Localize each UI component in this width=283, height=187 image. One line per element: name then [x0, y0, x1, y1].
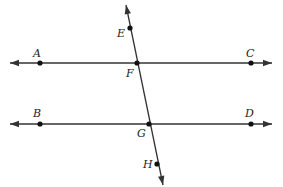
point-label-D: D	[244, 107, 254, 120]
point-label-B: B	[32, 107, 41, 120]
point-label-G: G	[137, 127, 146, 140]
line-AC	[10, 60, 272, 66]
point-label-E: E	[116, 27, 125, 40]
geometry-diagram: ACEFBDGH	[0, 0, 283, 187]
point-dot-icon	[37, 60, 42, 65]
point-label-F: F	[125, 67, 134, 80]
point-dot-icon	[154, 161, 159, 166]
arrowhead-icon	[10, 121, 19, 127]
point-label-C: C	[246, 47, 255, 60]
point-label-A: A	[32, 47, 41, 60]
point-dot-icon	[146, 121, 151, 126]
point-dot-icon	[37, 121, 42, 126]
arrowhead-icon	[125, 5, 131, 14]
point-label-H: H	[142, 158, 153, 171]
point-dot-icon	[248, 121, 253, 126]
arrowhead-icon	[10, 60, 19, 66]
diagram-canvas: ACEFBDGH	[0, 0, 283, 187]
point-H: H	[142, 158, 160, 171]
point-dot-icon	[248, 60, 253, 65]
point-dot-icon	[127, 25, 132, 30]
point-dot-icon	[134, 60, 139, 65]
point-E: E	[116, 25, 133, 40]
arrowhead-icon	[263, 121, 272, 127]
arrowhead-icon	[263, 60, 272, 66]
arrowhead-icon	[158, 176, 164, 185]
